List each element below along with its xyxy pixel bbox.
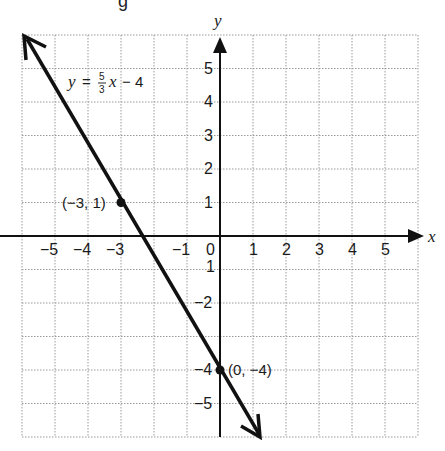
y-tick: 2 bbox=[204, 160, 213, 177]
x-tick: 0 bbox=[206, 241, 215, 258]
graph: x y −5 −4 −3 −1 0 1 2 3 4 5 5 4 3 2 1 1 … bbox=[0, 0, 445, 451]
equation-label: y = 5 3 x − 4 bbox=[66, 71, 143, 95]
y-tick: −5 bbox=[194, 395, 212, 412]
x-tick: −1 bbox=[172, 241, 190, 258]
line-arrow-top-icon bbox=[24, 36, 46, 60]
x-tick: 4 bbox=[348, 241, 357, 258]
point-0-neg4 bbox=[216, 366, 225, 375]
x-tick: −5 bbox=[40, 241, 58, 258]
y-tick: 3 bbox=[204, 127, 213, 144]
x-tick: 2 bbox=[282, 241, 291, 258]
eq-numerator: 5 bbox=[99, 71, 105, 82]
eq-y: y bbox=[66, 72, 76, 91]
x-tick: 5 bbox=[381, 241, 390, 258]
point-neg3-1 bbox=[117, 198, 126, 207]
x-tick: −4 bbox=[73, 241, 91, 258]
y-tick: 1 bbox=[204, 194, 213, 211]
y-tick: −4 bbox=[194, 361, 212, 378]
eq-x: x bbox=[108, 72, 117, 91]
y-tick: 4 bbox=[204, 93, 213, 110]
y-axis-arrow-icon bbox=[213, 37, 227, 53]
x-axis-arrow-icon bbox=[408, 229, 424, 243]
x-tick-labels: −5 −4 −3 −1 0 1 2 3 4 5 bbox=[40, 241, 390, 258]
eq-rest: − 4 bbox=[122, 73, 143, 90]
y-axis-label: y bbox=[212, 11, 222, 30]
eq-denominator: 3 bbox=[99, 84, 105, 95]
x-axis-label: x bbox=[427, 227, 436, 246]
y-tick: −2 bbox=[194, 294, 212, 311]
eq-equals: = bbox=[82, 73, 91, 90]
point-label: (−3, 1) bbox=[62, 194, 106, 211]
y-tick: 5 bbox=[204, 60, 213, 77]
x-tick: 3 bbox=[315, 241, 324, 258]
point-label: (0, −4) bbox=[228, 361, 272, 378]
y-tick: 1 bbox=[206, 258, 215, 275]
x-tick: 1 bbox=[249, 241, 258, 258]
x-tick: −3 bbox=[106, 241, 124, 258]
